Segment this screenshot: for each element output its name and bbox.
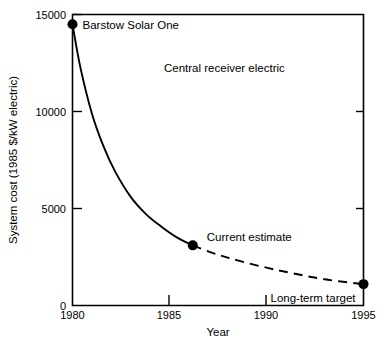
data-point-marker: [188, 240, 198, 250]
y-axis-title: System cost (1985 $/kW electric): [7, 76, 19, 244]
x-tick-label-1980: 1980: [60, 309, 84, 321]
data-point-marker: [68, 19, 78, 29]
y-tick-label-10000: 10000: [35, 106, 66, 118]
y-tick-label-5000: 5000: [42, 203, 66, 215]
x-axis-title: Year: [206, 326, 229, 338]
y-tick-label-15000: 15000: [35, 9, 66, 21]
system-cost-line-chart: 15000 10000 5000 0 1980 1985 1990 1995 Y…: [0, 0, 384, 342]
x-tick-label-1995: 1995: [351, 309, 375, 321]
data-point-label: Current estimate: [207, 231, 292, 243]
x-tick-label-1985: 1985: [157, 309, 181, 321]
x-tick-label-1990: 1990: [254, 309, 278, 321]
chart-container: 15000 10000 5000 0 1980 1985 1990 1995 Y…: [0, 0, 384, 342]
annotation-central-receiver-electric: Central receiver electric: [164, 62, 285, 74]
data-point-label: Long-term target: [270, 292, 356, 304]
data-point-marker: [359, 279, 369, 289]
data-point-label: Barstow Solar One: [83, 19, 180, 31]
chart-background: [0, 0, 384, 342]
